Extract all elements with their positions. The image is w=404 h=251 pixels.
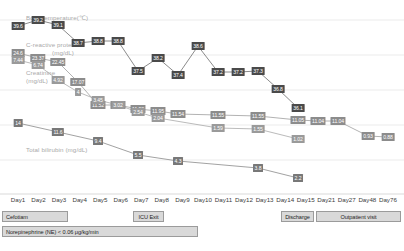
series-lines bbox=[0, 8, 404, 196]
data-label: 6.74 bbox=[32, 61, 45, 69]
x-tick-day10: Day10 bbox=[194, 196, 212, 203]
data-label: 38.7 bbox=[72, 39, 85, 47]
plot-area: Body temperature(℃) C-reactive protein (… bbox=[0, 8, 404, 196]
x-tick-day3: Day3 bbox=[52, 196, 66, 203]
x-tick-day13: Day13 bbox=[256, 196, 274, 203]
clinical-course-chart: Body temperature(℃) C-reactive protein (… bbox=[0, 0, 404, 251]
annotation-bar: ICU Exit bbox=[133, 211, 164, 222]
x-tick-day14: Day14 bbox=[276, 196, 294, 203]
data-label: 1.02 bbox=[292, 135, 305, 143]
data-label: 3.45 bbox=[92, 96, 105, 104]
data-label: 9.4 bbox=[93, 137, 103, 145]
data-label: 14 bbox=[14, 119, 23, 127]
data-label: 38.6 bbox=[192, 42, 205, 50]
x-tick-day12: Day12 bbox=[235, 196, 253, 203]
axis-title-crp: C-reactive protein bbox=[26, 41, 77, 49]
data-label: 22.45 bbox=[50, 58, 65, 66]
x-tick-day11: Day11 bbox=[215, 196, 232, 203]
annotation-bar: Cefotiam bbox=[2, 211, 68, 222]
x-tick-day21: Day21 bbox=[317, 196, 335, 203]
data-label: 37.2 bbox=[212, 68, 225, 76]
data-label: 39.6 bbox=[12, 22, 25, 30]
axis-title-creatinine-unit: (mg/dL) bbox=[26, 77, 48, 85]
annotation-bar: Discharge bbox=[281, 211, 314, 222]
data-label: 36.8 bbox=[272, 85, 285, 93]
data-label: 3.02 bbox=[112, 101, 125, 109]
data-label: 11.55 bbox=[250, 112, 265, 120]
data-label: 37.2 bbox=[232, 68, 245, 76]
data-label: 7.44 bbox=[12, 56, 25, 64]
data-label: 37.4 bbox=[172, 71, 185, 79]
x-tick-day5: Day5 bbox=[93, 196, 107, 203]
data-label: 2.04 bbox=[152, 114, 165, 122]
x-tick-day8: Day8 bbox=[155, 196, 169, 203]
x-tick-day48: Day48 bbox=[358, 196, 376, 203]
data-label: 4.92 bbox=[52, 76, 65, 84]
data-label: 11.04 bbox=[310, 117, 325, 125]
data-label: 17.07 bbox=[70, 78, 85, 86]
x-tick-day27: Day27 bbox=[338, 196, 356, 203]
x-tick-day15: Day15 bbox=[297, 196, 315, 203]
data-label: 0.93 bbox=[362, 132, 375, 140]
data-label: 39.2 bbox=[32, 16, 45, 24]
axis-title-crp-unit: (mg/dL) bbox=[52, 49, 74, 57]
data-label: 4 bbox=[75, 88, 81, 96]
x-tick-day9: Day9 bbox=[175, 196, 189, 203]
data-label: 36.1 bbox=[292, 104, 305, 112]
data-label: 11.05 bbox=[290, 116, 305, 124]
data-label: 1.59 bbox=[212, 124, 225, 132]
data-label: 37.3 bbox=[252, 67, 265, 75]
x-axis: Day1Day2Day3Day4Day5Day6Day7Day8Day9Day1… bbox=[0, 196, 404, 210]
data-label: 11.55 bbox=[210, 111, 225, 119]
data-label: 5.5 bbox=[133, 151, 143, 159]
annotation-bar: Outpatient visit bbox=[316, 211, 401, 222]
data-label: 4.3 bbox=[173, 157, 183, 165]
data-label: 2.2 bbox=[293, 174, 303, 182]
data-label: 11.6 bbox=[52, 128, 64, 136]
data-label: 37.5 bbox=[132, 67, 145, 75]
x-tick-day1: Day1 bbox=[11, 196, 25, 203]
data-label: 11.54 bbox=[170, 110, 185, 118]
data-label: 39.1 bbox=[52, 21, 65, 29]
x-tick-day6: Day6 bbox=[114, 196, 128, 203]
data-label: 38.8 bbox=[92, 37, 105, 45]
data-label: 38.8 bbox=[112, 37, 125, 45]
data-label: 0.88 bbox=[382, 133, 395, 141]
data-label: 3.8 bbox=[253, 164, 263, 172]
data-label: 38.2 bbox=[152, 54, 165, 62]
x-tick-day76: Day76 bbox=[379, 196, 397, 203]
x-tick-day2: Day2 bbox=[31, 196, 45, 203]
annotation-bar: Norepinephrine (NE) < 0.06 μg/kg/min bbox=[2, 226, 198, 237]
data-label: 1.55 bbox=[252, 125, 265, 133]
axis-title-bilirubin: Total bilirubin (mg/dL) bbox=[26, 146, 87, 154]
data-label: 11.04 bbox=[330, 117, 345, 125]
x-tick-day7: Day7 bbox=[134, 196, 148, 203]
x-tick-day4: Day4 bbox=[72, 196, 86, 203]
data-label: 2.54 bbox=[132, 108, 145, 116]
